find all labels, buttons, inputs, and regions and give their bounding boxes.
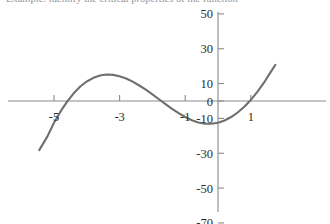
y-axis-tick-label: -70 bbox=[196, 216, 213, 224]
x-axis-tick-label: -5 bbox=[49, 110, 59, 124]
y-tick-labels-group: 5030100-10-30-50-70 bbox=[196, 7, 213, 224]
x-axis-tick-label: -1 bbox=[180, 110, 190, 124]
x-axis-tick-label: -3 bbox=[114, 110, 124, 124]
y-axis-tick-label: 30 bbox=[201, 42, 214, 56]
function-curve bbox=[39, 65, 275, 150]
figure-root: Example: identify the critical propertie… bbox=[0, 0, 330, 224]
y-axis-tick-label: 50 bbox=[201, 7, 214, 21]
y-ticks-group bbox=[218, 14, 224, 223]
x-axis-tick-label: 1 bbox=[248, 110, 254, 124]
y-axis-tick-label: -50 bbox=[196, 182, 213, 196]
y-axis-tick-label: 0 bbox=[207, 95, 213, 109]
plot-svg: -5-3-11 5030100-10-30-50-70 bbox=[0, 0, 330, 224]
y-axis-tick-label: -10 bbox=[196, 112, 213, 126]
x-ticks-group bbox=[54, 95, 251, 101]
y-axis-tick-label: -30 bbox=[196, 147, 213, 161]
y-axis-tick-label: 10 bbox=[201, 77, 214, 91]
plot-area: -5-3-11 5030100-10-30-50-70 bbox=[0, 0, 330, 224]
